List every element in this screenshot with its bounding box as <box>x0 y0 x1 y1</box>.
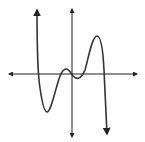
polynomial-graph <box>0 0 145 142</box>
graph-canvas <box>0 0 145 142</box>
